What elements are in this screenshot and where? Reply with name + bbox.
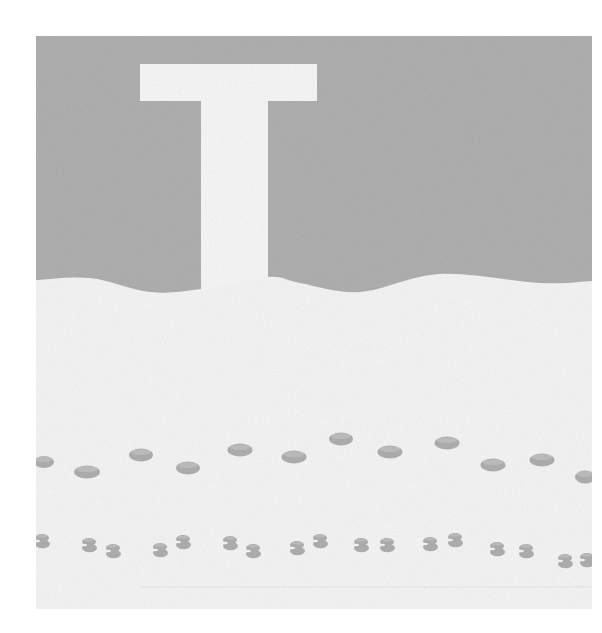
film-grain-overlay [36,36,592,609]
picture-frame [34,36,595,609]
snow-scene-illustration [0,0,602,633]
